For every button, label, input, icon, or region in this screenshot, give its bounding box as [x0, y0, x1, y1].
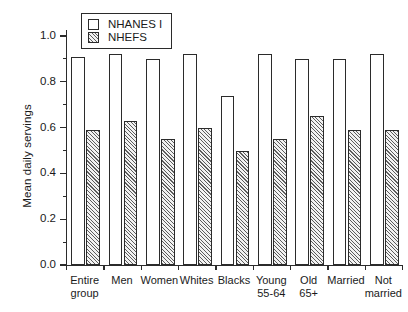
- x-tick: [103, 265, 104, 270]
- x-tick: [290, 265, 291, 270]
- bar: [348, 130, 362, 265]
- bar: [183, 54, 197, 265]
- x-tick: [327, 265, 328, 270]
- y-axis-title: Mean daily servings: [21, 76, 33, 236]
- x-tick: [66, 265, 67, 270]
- legend-label: NHEFS: [108, 32, 147, 44]
- plot-area: [66, 36, 402, 265]
- x-tick: [402, 265, 403, 270]
- bar: [124, 121, 138, 265]
- bar: [258, 54, 272, 265]
- bar: [198, 128, 212, 265]
- y-tick-label: 1.0: [12, 30, 56, 42]
- x-tick: [253, 265, 254, 270]
- y-tick-label: 0.0: [12, 259, 56, 271]
- bar: [385, 130, 399, 265]
- x-tick: [365, 265, 366, 270]
- legend-label: NHANES I: [108, 19, 162, 31]
- bar: [310, 116, 324, 265]
- y-tick-label: 0.2: [12, 213, 56, 225]
- bar: [295, 59, 309, 265]
- bar: [236, 151, 250, 266]
- bar: [221, 96, 235, 265]
- legend-swatch-icon: [88, 32, 99, 43]
- y-tick-label: 0.8: [12, 76, 56, 88]
- bar-chart-figure: Mean daily servings 0.00.20.40.60.81.0 E…: [0, 0, 408, 312]
- y-tick-label: 0.6: [12, 122, 56, 134]
- x-axis-label: Not married: [357, 274, 408, 299]
- x-tick: [141, 265, 142, 270]
- bar: [370, 54, 384, 265]
- x-tick: [215, 265, 216, 270]
- x-tick: [178, 265, 179, 270]
- bar: [273, 139, 287, 265]
- bar: [109, 54, 123, 265]
- bar: [71, 57, 85, 265]
- legend-item: NHEFS: [88, 31, 162, 44]
- bar: [333, 59, 347, 265]
- bar: [86, 130, 100, 265]
- legend-item: NHANES I: [88, 18, 162, 31]
- bar: [146, 59, 160, 265]
- chart-legend: NHANES INHEFS: [81, 13, 172, 49]
- legend-swatch-icon: [88, 19, 99, 30]
- y-tick-label: 0.4: [12, 167, 56, 179]
- bar: [161, 139, 175, 265]
